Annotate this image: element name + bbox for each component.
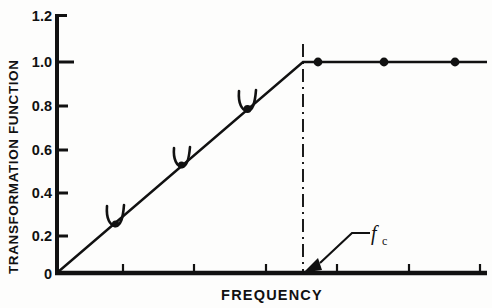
- cutoff-label-subscript: c: [382, 234, 387, 248]
- y-axis-title: TRANSFORMATION FUNCTION: [6, 59, 21, 274]
- data-point-dot-2: [380, 58, 389, 67]
- annotation-arrowhead: [304, 258, 323, 273]
- x-axis-title: FREQUENCY: [221, 287, 323, 303]
- chart-figure: 1.2 1.0 0.8 0.6 0.4 0.2 0 TRANSFORMATION…: [0, 0, 492, 308]
- y-tick-label-3: 0.6: [32, 142, 52, 158]
- y-axis-group: [57, 14, 74, 274]
- vee-markers: [107, 90, 256, 228]
- y-tick-label-0: 1.2: [32, 8, 52, 24]
- cutoff-label-f: f: [371, 222, 379, 245]
- x-axis-group: [55, 264, 487, 273]
- vee-marker-1: [107, 205, 124, 228]
- data-point-dot-3: [451, 58, 460, 67]
- y-tick-label-4: 0.4: [32, 185, 52, 201]
- transformation-function-chart: 1.2 1.0 0.8 0.6 0.4 0.2 0 TRANSFORMATION…: [0, 0, 492, 308]
- vee-marker-3: [239, 90, 256, 113]
- y-tick-label-5: 0.2: [32, 228, 52, 244]
- annotation-leader-line: [320, 233, 370, 263]
- data-point-dot-1: [314, 58, 323, 67]
- y-tick-label-2: 0.8: [32, 98, 52, 114]
- data-line: [58, 62, 487, 272]
- data-series-transformation-function: [58, 62, 487, 272]
- y-tick-labels: 1.2 1.0 0.8 0.6 0.4 0.2 0: [32, 8, 52, 282]
- y-tick-label-6: 0: [44, 266, 52, 282]
- vee-marker-2: [174, 147, 190, 169]
- y-tick-label-1: 1.0: [32, 54, 52, 70]
- cutoff-frequency-annotation: f c: [304, 222, 388, 273]
